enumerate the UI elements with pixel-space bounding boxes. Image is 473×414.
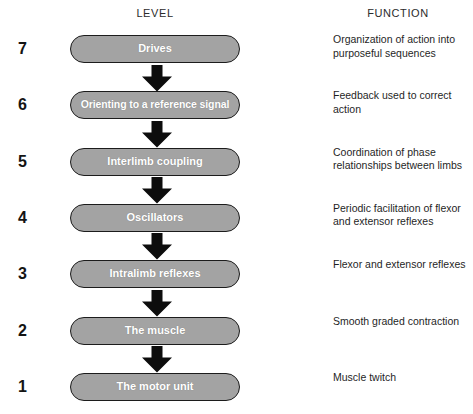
level-box[interactable]: The muscle [70, 317, 240, 345]
level-box[interactable]: Drives [70, 35, 240, 63]
level-box[interactable]: The motor unit [70, 373, 240, 401]
level-number: 3 [18, 260, 42, 288]
level-number: 5 [18, 148, 42, 176]
down-arrow-icon [141, 233, 173, 260]
diagram-row: 1The motor unitMuscle twitch [0, 373, 473, 401]
level-number: 7 [18, 35, 42, 63]
level-box[interactable]: Interlimb coupling [70, 148, 240, 176]
function-description: Periodic facilitation of flexor and exte… [333, 202, 473, 229]
hierarchy-diagram: LEVEL FUNCTION 7DrivesOrganization of ac… [0, 0, 473, 414]
diagram-row: 5Interlimb couplingCoordination of phase… [0, 148, 473, 176]
level-box[interactable]: Intralimb reflexes [70, 260, 240, 288]
column-header-function: FUNCTION [333, 7, 463, 19]
diagram-row: 7DrivesOrganization of action into purpo… [0, 35, 473, 63]
function-description: Coordination of phase relationships betw… [333, 146, 473, 173]
level-number: 2 [18, 317, 42, 345]
diagram-row: 6Orienting to a reference signalFeedback… [0, 91, 473, 119]
function-description: Muscle twitch [333, 371, 473, 385]
function-description: Feedback used to correct action [333, 89, 473, 116]
down-arrow-icon [141, 177, 173, 204]
diagram-row: 3Intralimb reflexesFlexor and extensor r… [0, 260, 473, 288]
level-number: 6 [18, 91, 42, 119]
function-description: Smooth graded contraction [333, 315, 473, 329]
down-arrow-icon [141, 65, 173, 92]
diagram-row: 4OscillatorsPeriodic facilitation of fle… [0, 204, 473, 232]
level-box[interactable]: Orienting to a reference signal [70, 91, 240, 119]
down-arrow-icon [141, 121, 173, 148]
level-box[interactable]: Oscillators [70, 204, 240, 232]
down-arrow-icon [141, 346, 173, 373]
function-description: Flexor and extensor reflexes [333, 258, 473, 272]
column-header-level: LEVEL [70, 7, 240, 19]
diagram-row: 2The muscleSmooth graded contraction [0, 317, 473, 345]
level-number: 1 [18, 373, 42, 401]
level-number: 4 [18, 204, 42, 232]
down-arrow-icon [141, 290, 173, 317]
function-description: Organization of action into purposeful s… [333, 33, 473, 60]
